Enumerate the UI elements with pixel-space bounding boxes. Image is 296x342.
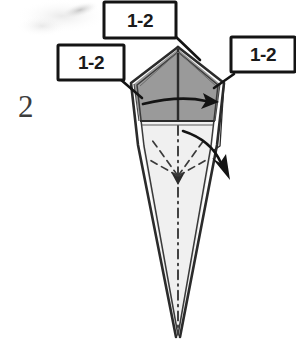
step-number: 2	[18, 89, 34, 124]
callout-top-label: 1-2	[127, 10, 153, 31]
origami-diagram-figure: 1-2 1-2 1-2 2	[0, 0, 296, 342]
origami-diagram-canvas: 1-2 1-2 1-2 2	[0, 0, 296, 342]
callout-right-label: 1-2	[250, 44, 276, 65]
callout-left-label: 1-2	[78, 52, 104, 73]
